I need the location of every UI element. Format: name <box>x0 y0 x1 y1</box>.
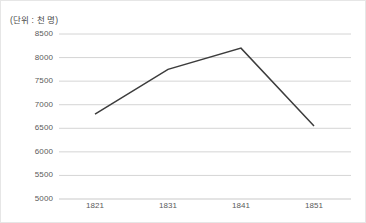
y-axis-tick-label: 6500 <box>9 123 53 132</box>
x-axis-tick-label: 1831 <box>138 201 198 210</box>
chart-page: (단위 : 천 명) 50005500600065007000750080008… <box>0 0 366 223</box>
x-axis-tick-label: 1821 <box>65 201 125 210</box>
data-series-line <box>95 48 314 126</box>
y-axis-tick-label: 5500 <box>9 170 53 179</box>
y-axis-tick-label: 5000 <box>9 194 53 203</box>
y-axis-tick-label: 8500 <box>9 29 53 38</box>
x-axis-tick-label: 1851 <box>284 201 344 210</box>
line-chart-plot <box>1 1 366 223</box>
y-axis-tick-label: 8000 <box>9 53 53 62</box>
y-axis-tick-label: 7500 <box>9 76 53 85</box>
y-axis-tick-label: 7000 <box>9 100 53 109</box>
y-axis-tick-label: 6000 <box>9 147 53 156</box>
x-axis-tick-label: 1841 <box>211 201 271 210</box>
